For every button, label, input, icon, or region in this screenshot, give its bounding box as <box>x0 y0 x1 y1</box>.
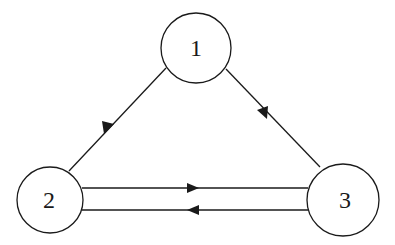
edge-1-to-3 <box>226 69 320 167</box>
node-3: 3 <box>307 164 379 236</box>
node-label: 2 <box>43 187 55 213</box>
graph-diagram: 1 2 3 <box>0 0 395 245</box>
node-2: 2 <box>17 167 83 233</box>
edge-1-to-2 <box>69 68 166 171</box>
arrowhead-icon <box>187 183 199 193</box>
node-1: 1 <box>161 13 231 83</box>
arrowhead-icon <box>102 121 114 134</box>
node-label: 1 <box>190 35 202 61</box>
edge-2-to-3 <box>82 183 308 193</box>
arrowhead-icon <box>187 205 199 215</box>
node-label: 3 <box>339 187 351 213</box>
edge-3-to-2 <box>82 205 308 215</box>
